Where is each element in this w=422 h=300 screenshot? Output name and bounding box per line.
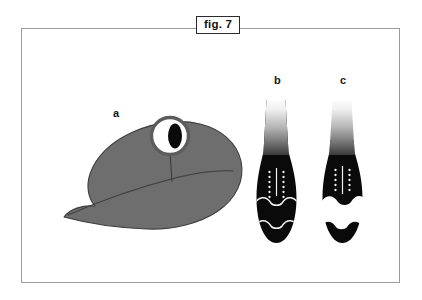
figure-frame-border bbox=[21, 28, 400, 283]
panel-label-a: a bbox=[113, 107, 119, 119]
figure-root: fig. 7 a b c bbox=[0, 0, 422, 300]
panel-label-b: b bbox=[274, 74, 281, 86]
figure-caption-label: fig. 7 bbox=[196, 16, 240, 34]
panel-label-c: c bbox=[340, 74, 346, 86]
